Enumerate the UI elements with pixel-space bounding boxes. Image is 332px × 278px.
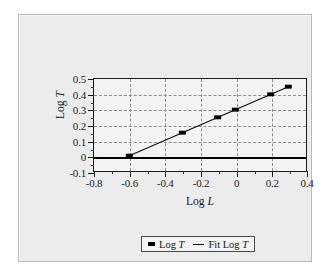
- fit-line-series: [129, 87, 288, 156]
- legend-item-log-t[interactable]: Log T: [148, 239, 184, 250]
- xtick-label--0.6: -0.6: [121, 177, 138, 189]
- xtick-minor-0.3: [290, 171, 291, 174]
- plot-area: 0.5 0.4 0.3 0.2 0.1 0 -0.1 -0.8 -0.6: [93, 78, 307, 172]
- data-point: [179, 131, 186, 135]
- xtick-minor--0.7: [112, 171, 113, 174]
- figure-page: Log T: [0, 0, 332, 278]
- y-axis-title-prefix: Log: [54, 98, 66, 119]
- ytick-label-0.2: 0.2: [73, 120, 86, 132]
- xtick-label--0.2: -0.2: [193, 177, 210, 189]
- line-swatch-icon: [193, 244, 204, 245]
- xtick-minor--0.1: [219, 171, 220, 174]
- x-axis-title-variable: L: [208, 195, 214, 207]
- xtick-label--0.4: -0.4: [157, 177, 174, 189]
- ytick-label-0: 0: [81, 151, 86, 163]
- xtick-minor-0.1: [255, 171, 256, 174]
- xtick-minor--0.5: [148, 171, 149, 174]
- xtick-label-0: 0: [234, 177, 239, 189]
- xtick-label-0.4: 0.4: [300, 177, 313, 189]
- y-axis-title-variable: T: [54, 91, 66, 97]
- data-point: [285, 85, 292, 89]
- data-point: [232, 108, 239, 112]
- legend-label-log-t: Log T: [159, 239, 184, 250]
- data-point: [214, 115, 221, 119]
- ytick-label-0.4: 0.4: [73, 89, 86, 101]
- series-canvas: [94, 79, 306, 171]
- chart-legend: Log T Fit Log T: [141, 236, 255, 252]
- xtick-minor--0.3: [183, 171, 184, 174]
- figure-frame: Log T: [18, 14, 312, 262]
- xtick-label-0.2: 0.2: [266, 177, 279, 189]
- legend-item-fit-log-t[interactable]: Fit Log T: [193, 239, 248, 250]
- data-point: [267, 92, 274, 96]
- ytick-label-0.1: 0.1: [73, 136, 86, 148]
- square-marker-icon: [148, 242, 155, 246]
- ytick-label-0.3: 0.3: [73, 104, 86, 116]
- xtick-label--0.8: -0.8: [86, 177, 103, 189]
- y-axis-title: Log T: [54, 75, 66, 135]
- data-point: [126, 154, 133, 158]
- ytick-label--0.1: -0.1: [69, 167, 86, 179]
- x-axis-title: Log L: [93, 195, 307, 207]
- x-axis-title-prefix: Log: [186, 195, 207, 207]
- ytick-label-0.5: 0.5: [73, 73, 86, 85]
- legend-label-fit-log-t: Fit Log T: [208, 239, 248, 250]
